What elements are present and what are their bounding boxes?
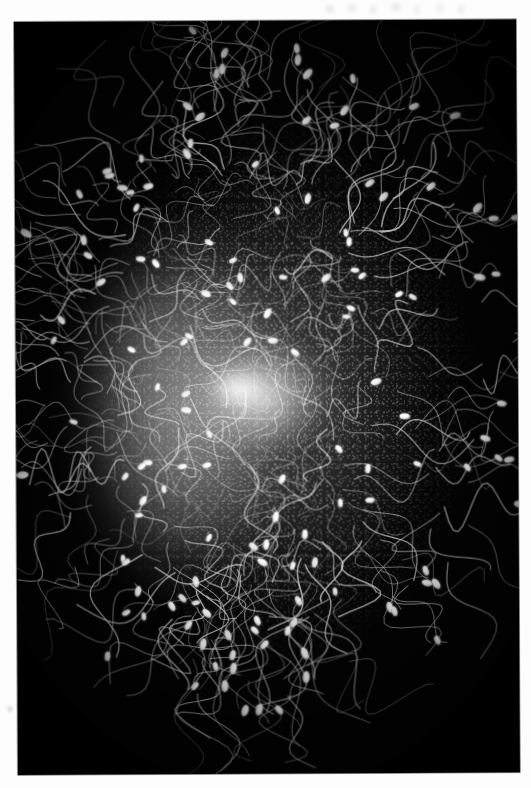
flagellum bbox=[319, 358, 372, 379]
flagellum bbox=[328, 496, 347, 550]
flagellum bbox=[28, 402, 114, 429]
flagellum bbox=[213, 69, 231, 164]
sperm-head bbox=[268, 338, 278, 344]
flagellum bbox=[346, 119, 400, 177]
top-edge-smudge-artifact bbox=[318, 0, 473, 19]
sperm-head bbox=[497, 401, 507, 407]
flagellum bbox=[43, 180, 125, 237]
flagellum bbox=[105, 301, 149, 336]
flagellum bbox=[447, 562, 497, 658]
flagellum bbox=[247, 324, 307, 392]
flagellum bbox=[320, 443, 334, 503]
sperm-head bbox=[50, 336, 58, 345]
sperm-head bbox=[514, 500, 520, 507]
flagellum bbox=[296, 315, 344, 331]
flagellum bbox=[14, 429, 48, 448]
flagellum bbox=[349, 658, 433, 714]
sperm-head bbox=[289, 561, 296, 570]
flagellum bbox=[402, 553, 484, 596]
flagellum bbox=[298, 202, 339, 238]
sperm-head bbox=[256, 557, 269, 568]
sperm-head bbox=[332, 587, 338, 596]
flagellum bbox=[73, 40, 123, 106]
flagellum bbox=[177, 100, 224, 169]
sperm-head bbox=[370, 377, 382, 386]
sperm-head bbox=[400, 413, 410, 419]
flagellum bbox=[106, 275, 157, 299]
flagellum bbox=[14, 321, 47, 353]
sperm-head bbox=[504, 456, 515, 463]
flagellum bbox=[429, 529, 490, 571]
flagellum bbox=[194, 52, 223, 108]
darkfield-micrograph-photo bbox=[14, 19, 520, 775]
sperm-head bbox=[253, 615, 262, 626]
flagellum bbox=[87, 183, 118, 233]
flagellum bbox=[515, 300, 520, 334]
sperm-head bbox=[202, 462, 212, 469]
sperm-head bbox=[290, 347, 301, 357]
sperm-cells-drawing bbox=[14, 19, 520, 775]
flagellum bbox=[410, 32, 491, 97]
flagellum bbox=[455, 443, 520, 467]
flagellum bbox=[313, 539, 376, 593]
flagellum bbox=[483, 355, 520, 394]
flagellum bbox=[102, 310, 116, 394]
sperm-head bbox=[121, 472, 130, 482]
sperm-head bbox=[181, 406, 192, 413]
flagellum bbox=[194, 178, 219, 220]
flagellum bbox=[272, 252, 285, 309]
flagellum bbox=[14, 263, 59, 286]
left-margin-mark-artifact bbox=[2, 700, 18, 718]
flagellum bbox=[164, 283, 236, 329]
flagellum bbox=[348, 502, 413, 568]
photo-inner-frame bbox=[14, 19, 520, 775]
flagellum bbox=[14, 510, 71, 574]
flagellum bbox=[260, 336, 307, 405]
flagellum bbox=[14, 427, 67, 469]
sperm-head bbox=[277, 473, 287, 484]
sperm-head bbox=[511, 214, 520, 221]
flagellum bbox=[160, 116, 203, 175]
flagellum bbox=[14, 257, 41, 283]
sperm-head bbox=[425, 181, 436, 192]
sperm-head bbox=[394, 290, 403, 298]
sperm-head bbox=[449, 111, 462, 120]
flagellum bbox=[359, 151, 395, 235]
sperm-head bbox=[200, 289, 212, 299]
sperm-head bbox=[302, 530, 308, 540]
sperm-head bbox=[346, 304, 356, 312]
flagellum bbox=[430, 128, 483, 167]
flagellum bbox=[30, 222, 75, 297]
flagellum bbox=[127, 510, 161, 562]
flagellum bbox=[210, 591, 274, 659]
sperm-head bbox=[177, 593, 188, 604]
flagellum bbox=[355, 449, 435, 502]
sperm-head bbox=[311, 557, 319, 568]
sperm-head bbox=[492, 271, 501, 277]
sperm-head bbox=[489, 216, 499, 222]
flagellum bbox=[120, 181, 159, 257]
sperm-head bbox=[132, 203, 140, 213]
flagellum bbox=[46, 589, 139, 643]
flagellum bbox=[468, 464, 520, 513]
flagellum bbox=[14, 184, 80, 216]
sperm-head bbox=[378, 190, 390, 202]
sperm-head bbox=[338, 499, 343, 508]
flagellum bbox=[277, 254, 356, 282]
sperm-head bbox=[151, 258, 161, 269]
flagellum bbox=[35, 138, 130, 200]
sperm-head bbox=[188, 25, 198, 35]
flagellum bbox=[236, 20, 256, 88]
flagellum bbox=[376, 19, 432, 114]
sperm-heads-group bbox=[14, 23, 520, 718]
sperm-head bbox=[343, 229, 348, 237]
sperm-head bbox=[346, 237, 352, 246]
flagellum bbox=[18, 513, 71, 582]
flagellum bbox=[233, 681, 281, 761]
sperm-head bbox=[121, 609, 131, 617]
flagellum bbox=[14, 398, 45, 419]
flagellum bbox=[38, 567, 79, 629]
sperm-head bbox=[250, 625, 260, 635]
flagellum bbox=[259, 111, 333, 168]
flagellum bbox=[167, 267, 206, 301]
